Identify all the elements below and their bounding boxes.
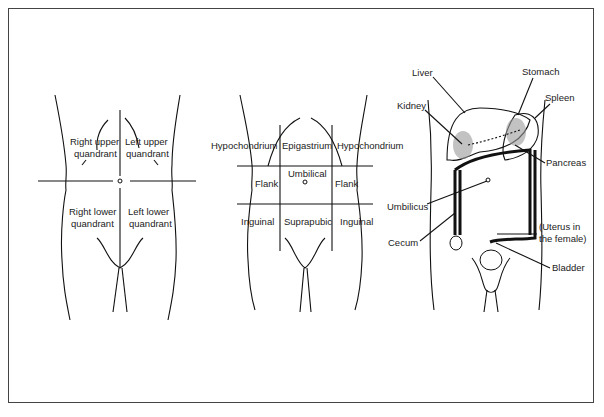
torso-left-outline (55, 95, 70, 320)
label-epigastrium: Epigastrium (282, 140, 332, 151)
label-right-lower-2: quandrant (71, 218, 114, 229)
colon-shape (455, 150, 535, 242)
torso-left-outline (240, 95, 255, 310)
label-right-lower: Right lower (69, 206, 117, 217)
label-umbilical: Umbilical (288, 168, 327, 179)
label-right-upper: Right upper (70, 136, 119, 147)
label-flank-right: Flank (255, 178, 278, 189)
label-uterus-1: (Uterus in (539, 221, 580, 232)
umbilicus-leader (427, 181, 487, 204)
torso-left-outline (428, 100, 434, 310)
label-left-lower: Left lower (128, 206, 169, 217)
label-left-upper-2: quandrant (126, 148, 169, 159)
label-left-upper: Left upper (125, 136, 168, 147)
label-uterus-2: the female) (539, 233, 587, 244)
quadrants-panel: Right upper quandrant Left upper quandra… (38, 95, 196, 320)
spleen-leader (535, 104, 550, 118)
label-right-upper-2: quandrant (74, 148, 117, 159)
torso-right-outline (168, 95, 180, 320)
cecum-shape (450, 236, 462, 250)
label-kidney: Kidney (397, 100, 426, 111)
organs-panel: Liver Stomach Spleen Kidney Pancreas Umb… (387, 66, 587, 312)
navel-icon (303, 180, 307, 184)
torso-right-outline (355, 95, 367, 310)
kidney-left-shading (506, 118, 526, 146)
label-bladder: Bladder (552, 262, 585, 273)
label-stomach: Stomach (522, 66, 560, 77)
torso-right-outline (539, 100, 545, 310)
label-inguinal-left: Inguinal (340, 216, 373, 227)
liver-leader (433, 77, 465, 113)
label-hypochondrium-left: Hypochondrium (337, 140, 404, 151)
bladder-shape (480, 250, 502, 270)
regions-panel: Hypochondrium Epigastrium Hypochondrium … (211, 95, 404, 312)
cecum-leader (420, 213, 455, 241)
label-suprapubic: Suprapubic (284, 216, 332, 227)
stomach-leader (518, 78, 533, 115)
label-flank-left: Flank (335, 178, 358, 189)
navel-icon (118, 179, 122, 183)
label-umbilicus: Umbilicus (387, 201, 428, 212)
label-pancreas: Pancreas (546, 157, 586, 168)
label-hypochondrium-right: Hypochondrium (211, 140, 278, 151)
label-cecum: Cecum (388, 237, 418, 248)
abdomen-diagram: Right upper quandrant Left upper quandra… (0, 0, 604, 417)
label-liver: Liver (412, 67, 433, 78)
label-inguinal-right: Inguinal (241, 216, 274, 227)
groin-outline (285, 238, 325, 268)
label-spleen: Spleen (545, 92, 575, 103)
label-left-lower-2: quandrant (129, 218, 172, 229)
